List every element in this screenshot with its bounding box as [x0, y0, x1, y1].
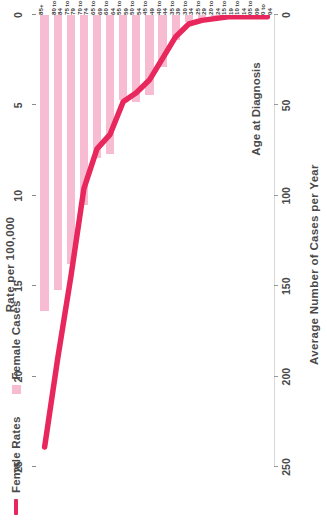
legend-line-swatch — [14, 499, 18, 515]
category-label: 80 to84 — [51, 1, 64, 15]
category-label: 70 to74 — [77, 1, 90, 15]
chart-canvas: Rate per 100,000 Female Rates Female Cas… — [0, 0, 327, 529]
cases-tick — [274, 285, 278, 286]
category-tick-labels: 0 to0405 to0910 to1415 to1920 to2425 to2… — [38, 0, 274, 15]
cases-tick-label: 250 — [280, 458, 292, 476]
category-label: 55 to59 — [116, 1, 129, 15]
rate-tick — [32, 466, 36, 467]
chart-legend: Female Rates Female Cases — [10, 300, 22, 515]
category-label: 45 to49 — [142, 1, 155, 15]
category-label: 85+ — [38, 5, 45, 16]
rate-tick — [32, 376, 36, 377]
rotated-canvas: Rate per 100,000 Female Rates Female Cas… — [0, 0, 327, 529]
cases-tick-label: 50 — [280, 100, 292, 112]
rate-tick-label: 15 — [12, 280, 24, 292]
cases-tick-label: 0 — [280, 12, 292, 18]
rate-tick-label: 0 — [12, 12, 24, 18]
category-label: 50 to54 — [129, 1, 142, 15]
rate-tick — [32, 285, 36, 286]
category-label: 25 to29 — [195, 1, 208, 15]
category-label: 10 to14 — [234, 1, 247, 15]
cases-tick — [274, 376, 278, 377]
rate-tick-label: 10 — [12, 190, 24, 202]
rate-tick-label: 5 — [12, 102, 24, 108]
cases-tick — [274, 14, 278, 15]
cases-axis-title: Average Number of Cases per Year — [308, 0, 320, 529]
category-label: 40 to44 — [156, 1, 169, 15]
cases-tick — [274, 104, 278, 105]
chart-figure: Rate per 100,000 Female Rates Female Cas… — [0, 0, 327, 529]
cases-tick-label: 200 — [280, 368, 292, 386]
category-label: 75 to79 — [64, 1, 77, 15]
category-label: 05 to09 — [247, 1, 260, 15]
category-label: 35 to39 — [169, 1, 182, 15]
category-axis-title: Age at Diagnosis — [250, 19, 262, 199]
category-label: 15 to19 — [221, 1, 234, 15]
cases-tick — [274, 195, 278, 196]
cases-tick-label: 100 — [280, 187, 292, 205]
legend-label-female-cases: Female Cases — [10, 300, 22, 379]
rate-tick-label: 20 — [12, 371, 24, 383]
cases-axis: 250200150100500 — [274, 15, 288, 467]
category-label: 60 to64 — [103, 1, 116, 15]
category-label: 0 to04 — [260, 4, 273, 15]
rate-tick — [32, 104, 36, 105]
cases-tick-label: 150 — [280, 277, 292, 295]
category-label: 30 to34 — [182, 1, 195, 15]
rate-tick — [32, 195, 36, 196]
plot-area — [38, 15, 274, 467]
category-label: 65 to69 — [90, 1, 103, 15]
legend-square-swatch — [12, 385, 21, 394]
rate-axis: 2520151050 — [26, 15, 38, 467]
rate-line — [38, 15, 274, 467]
rate-tick-label: 25 — [12, 461, 24, 473]
category-label: 20 to24 — [208, 1, 221, 15]
legend-label-female-rates: Female Rates — [10, 416, 22, 493]
line-series-female-rates — [38, 15, 274, 467]
cases-tick — [274, 466, 278, 467]
rate-tick — [32, 14, 36, 15]
